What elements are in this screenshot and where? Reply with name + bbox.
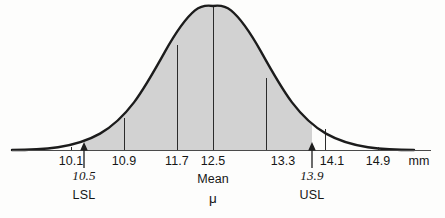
lsl-value-label: 10.5 (72, 168, 96, 184)
usl-value-label: 13.9 (300, 168, 324, 184)
axis-tick-label-14-9: 14.9 (366, 154, 391, 168)
axis-tick-label-10-9: 10.9 (112, 154, 137, 168)
axis-unit-label: mm (409, 154, 430, 168)
lsl-name-label: LSL (73, 188, 96, 202)
axis-tick-label-14-1: 14.1 (320, 154, 345, 168)
axis-tick-label-13-3: 13.3 (271, 154, 296, 168)
axis-tick-label-12-5: 12.5 (201, 154, 226, 168)
figure-container: 10.1 10.9 11.7 12.5 13.3 14.1 14.9 mm 10… (0, 0, 445, 218)
axis-tick-label-10-1: 10.1 (59, 154, 84, 168)
mu-symbol: μ (209, 191, 217, 206)
usl-name-label: USL (300, 188, 325, 202)
mean-label: Mean (197, 172, 228, 186)
axis-tick-label-11-7: 11.7 (165, 154, 189, 168)
